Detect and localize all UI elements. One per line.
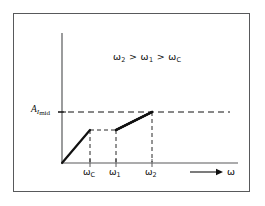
y-axis-label-sub-mid: mid: [39, 109, 50, 117]
inequality-omega2: ω2: [113, 51, 126, 62]
x-tick-omega-2-sub: 2: [153, 171, 157, 179]
curve-high-frequency-ramp: [116, 112, 152, 130]
x-tick-omega-c-symbol: ω: [83, 167, 91, 177]
x-tick-omega-1-sub: 1: [117, 171, 121, 179]
inequality-omega-c: ωC: [168, 51, 181, 62]
y-axis-label-main: A: [31, 104, 37, 114]
x-tick-label-omega-c: ωC: [83, 168, 95, 177]
x-tick-omega-c-sub: C: [91, 171, 96, 179]
inequality-operator-2: >: [153, 51, 168, 62]
x-axis-variable-label: ω: [227, 167, 235, 177]
x-tick-omega-1-symbol: ω: [109, 167, 117, 177]
inequality-operator-1: >: [126, 51, 141, 62]
ramp-overlay: [0, 0, 265, 206]
x-tick-label-omega-1: ω1: [109, 168, 121, 177]
y-axis-label: AImid: [31, 105, 50, 115]
figure-page: ω2 > ω1 > ωC AImid ωC ω1 ω2 ω: [0, 0, 265, 206]
inequality-annotation: ω2 > ω1 > ωC: [113, 52, 181, 62]
x-tick-label-omega-2: ω2: [145, 168, 157, 177]
x-tick-omega-2-symbol: ω: [145, 167, 153, 177]
inequality-omega1: ω1: [141, 51, 154, 62]
